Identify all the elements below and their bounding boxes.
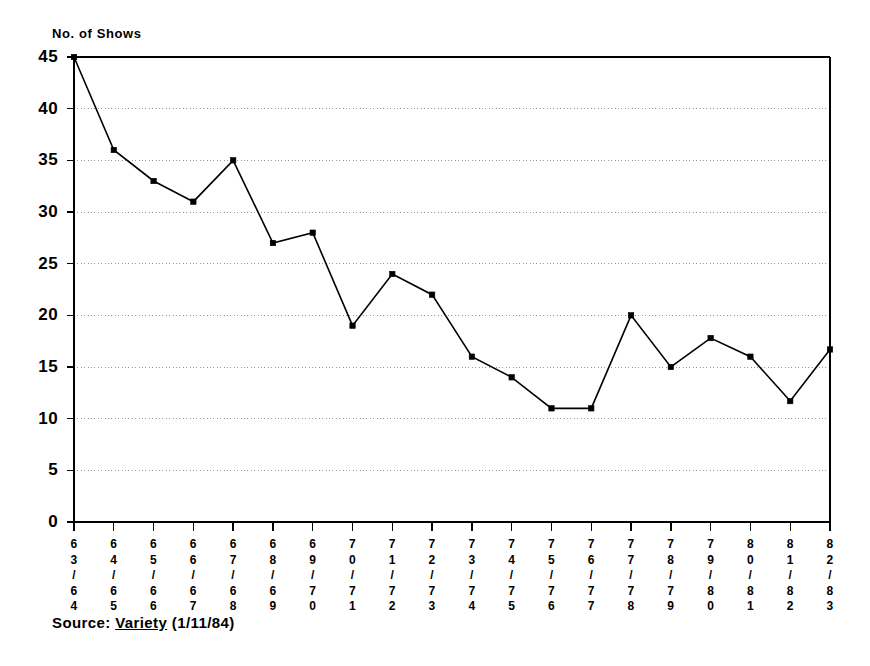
x-tick-label-char: 6 (578, 553, 604, 569)
y-tick-label: 30 (26, 202, 58, 222)
x-tick-label-char: 9 (698, 553, 724, 569)
x-tick-label-char: 9 (260, 599, 286, 615)
x-tick-label-char: 6 (220, 584, 246, 600)
x-tick-label-char: / (300, 568, 326, 584)
x-tick-label-char: 7 (340, 537, 366, 553)
x-tick-label-char: / (698, 568, 724, 584)
x-tick-label-char: 6 (101, 584, 127, 600)
x-tick-label-char: / (777, 568, 803, 584)
source-date: (1/11/84) (167, 614, 234, 631)
x-tick-label-char: 6 (180, 584, 206, 600)
chart-container: No. of Shows 051015202530354045 63/6464/… (0, 0, 870, 666)
x-tick-label-char: 2 (777, 599, 803, 615)
x-tick-label-char: 0 (300, 599, 326, 615)
x-tick-label-char: 6 (220, 537, 246, 553)
x-tick-label-char: / (220, 568, 246, 584)
x-tick-label-char: 7 (459, 537, 485, 553)
x-tick-label: 78/79 (658, 537, 684, 615)
x-tick-label-char: 6 (180, 537, 206, 553)
x-tick-label-char: 0 (698, 599, 724, 615)
x-tick-label-char: / (340, 568, 366, 584)
x-tick-label-char: / (538, 568, 564, 584)
x-tick-label-char: / (658, 568, 684, 584)
x-tick-label: 74/75 (499, 537, 525, 615)
x-tick-label-char: 8 (817, 537, 843, 553)
x-tick-label-char: 6 (180, 553, 206, 569)
x-tick-label-char: 7 (658, 584, 684, 600)
x-tick-label-char: 7 (499, 584, 525, 600)
x-tick-label-char: / (618, 568, 644, 584)
x-tick-label-char: 1 (379, 553, 405, 569)
x-tick-label: 80/81 (737, 537, 763, 615)
y-tick-label: 5 (26, 460, 58, 480)
x-tick-label: 76/77 (578, 537, 604, 615)
x-tick-label-char: 7 (419, 537, 445, 553)
x-tick-label-char: 7 (578, 584, 604, 600)
source-publication: Variety (115, 614, 167, 631)
x-tick-label-char: 5 (538, 553, 564, 569)
x-tick-label: 64/65 (101, 537, 127, 615)
x-tick-label-char: 4 (101, 553, 127, 569)
x-tick-label: 68/69 (260, 537, 286, 615)
y-tick-label: 20 (26, 305, 58, 325)
x-tick-label-char: 7 (459, 584, 485, 600)
x-tick-label-char: / (459, 568, 485, 584)
y-tick-label: 45 (26, 47, 58, 67)
x-tick-label-char: 7 (419, 584, 445, 600)
source-prefix: Source: (52, 614, 115, 631)
x-tick-label-char: 6 (61, 537, 87, 553)
x-tick-label-char: / (419, 568, 445, 584)
x-tick-label-char: 2 (419, 553, 445, 569)
x-tick-label-char: 4 (459, 599, 485, 615)
x-tick-label-char: 7 (180, 599, 206, 615)
x-tick-label-char: 7 (499, 537, 525, 553)
x-tick-label-char: 8 (618, 599, 644, 615)
x-tick-label-char: / (61, 568, 87, 584)
x-tick-label-char: 3 (817, 599, 843, 615)
x-tick-label-char: 8 (698, 584, 724, 600)
x-tick-label-char: 9 (658, 599, 684, 615)
x-tick-label-char: 3 (419, 599, 445, 615)
x-tick-label-char: 8 (260, 553, 286, 569)
x-tick-label-char: 6 (141, 584, 167, 600)
x-tick-label: 67/68 (220, 537, 246, 615)
x-tick-label-char: 0 (340, 553, 366, 569)
x-tick-label-char: / (379, 568, 405, 584)
x-tick-label: 63/64 (61, 537, 87, 615)
x-tick-label-char: 8 (220, 599, 246, 615)
x-tick-label-char: / (817, 568, 843, 584)
x-tick-label-char: 7 (698, 537, 724, 553)
x-tick-label-char: 7 (379, 537, 405, 553)
x-tick-label-char: 3 (61, 553, 87, 569)
x-tick-label-char: 6 (260, 537, 286, 553)
x-tick-label: 69/70 (300, 537, 326, 615)
x-tick-label: 72/73 (419, 537, 445, 615)
x-tick-label-char: 6 (260, 584, 286, 600)
y-tick-label: 25 (26, 254, 58, 274)
x-tick-label-char: / (499, 568, 525, 584)
x-tick-label-char: 0 (737, 553, 763, 569)
x-tick-label-char: / (578, 568, 604, 584)
x-tick-label-char: 6 (141, 537, 167, 553)
y-tick-label: 0 (26, 512, 58, 532)
x-tick-label-char: 5 (141, 553, 167, 569)
x-tick-label-char: 6 (300, 537, 326, 553)
x-tick-label-char: 5 (499, 599, 525, 615)
x-tick-label-char: 5 (101, 599, 127, 615)
x-tick-label-char: 7 (578, 537, 604, 553)
x-tick-label-char: 8 (777, 537, 803, 553)
x-tick-label-char: 2 (379, 599, 405, 615)
x-tick-label-char: 7 (658, 537, 684, 553)
x-tick-label-char: 8 (737, 584, 763, 600)
x-tick-label-char: / (101, 568, 127, 584)
x-tick-label: 70/71 (340, 537, 366, 615)
y-tick-label: 35 (26, 150, 58, 170)
y-tick-label: 15 (26, 357, 58, 377)
x-tick-label-char: 6 (61, 584, 87, 600)
x-tick-label-char: 7 (618, 584, 644, 600)
x-tick-label-char: 2 (817, 553, 843, 569)
x-tick-label-char: 9 (300, 553, 326, 569)
x-tick-label-char: 8 (817, 584, 843, 600)
x-tick-label-char: 7 (300, 584, 326, 600)
x-tick-label-char: 8 (658, 553, 684, 569)
